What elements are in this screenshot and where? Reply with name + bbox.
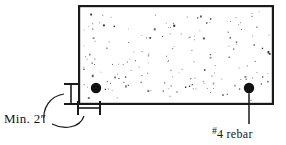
aggregate-speck (200, 16, 202, 18)
aggregate-speck (89, 54, 90, 56)
aggregate-speck (170, 27, 171, 28)
aggregate-speck (236, 41, 237, 43)
aggregate-speck (245, 79, 246, 80)
aggregate-speck (166, 56, 167, 57)
aggregate-speck (240, 22, 241, 23)
aggregate-speck (210, 92, 211, 93)
aggregate-speck (146, 38, 147, 39)
aggregate-speck (118, 64, 119, 65)
aggregate-speck (221, 79, 222, 80)
aggregate-speck (252, 13, 253, 14)
min-cover-label: Min. 2″ (4, 112, 46, 125)
aggregate-speck (215, 65, 216, 66)
aggregate-speck (87, 59, 88, 60)
aggregate-speck (228, 32, 229, 33)
aggregate-speck (261, 83, 262, 85)
aggregate-speck (100, 72, 101, 73)
leader-min-cover-lower (52, 116, 84, 127)
aggregate-speck (194, 40, 195, 41)
aggregate-speck (173, 23, 174, 24)
aggregate-speck (235, 17, 236, 18)
aggregate-speck (262, 48, 263, 49)
aggregate-speck (148, 53, 149, 54)
aggregate-speck (168, 61, 169, 62)
inch-mark-symbol: ″ (40, 111, 46, 126)
aggregate-speck (170, 33, 171, 34)
aggregate-speck (236, 44, 237, 45)
aggregate-speck (128, 42, 129, 43)
aggregate-speck (240, 79, 241, 80)
aggregate-speck (112, 90, 113, 91)
aggregate-speck (244, 76, 246, 77)
aggregate-speck (147, 73, 148, 74)
aggregate-speck (210, 18, 211, 20)
aggregate-speck (213, 88, 214, 89)
aggregate-speck (262, 76, 263, 77)
aggregate-speck (112, 64, 113, 65)
aggregate-speck (102, 15, 103, 16)
aggregate-speck (230, 37, 231, 38)
aggregate-speck (204, 83, 205, 84)
aggregate-speck (83, 69, 84, 70)
aggregate-speck (125, 85, 127, 87)
aggregate-speck (213, 83, 214, 85)
aggregate-speck (256, 72, 257, 73)
aggregate-speck (148, 63, 149, 64)
aggregate-speck (129, 59, 130, 60)
aggregate-speck (117, 97, 118, 98)
aggregate-speck (259, 11, 260, 12)
aggregate-speck (194, 61, 195, 62)
aggregate-speck (252, 36, 253, 37)
aggregate-speck (90, 14, 92, 16)
aggregate-speck (114, 26, 115, 28)
aggregate-speck (173, 25, 175, 27)
aggregate-speck (227, 94, 228, 95)
aggregate-speck (94, 64, 95, 65)
aggregate-speck (109, 42, 110, 43)
aggregate-speck (189, 86, 190, 87)
aggregate-speck (168, 60, 169, 61)
aggregate-speck (207, 88, 208, 89)
aggregate-speck (118, 78, 119, 79)
aggregate-speck (197, 17, 198, 19)
aggregate-speck (256, 26, 257, 28)
rebar-left (91, 83, 101, 93)
concrete-rebar-cover-figure: Min. 2″ #4 rebar (0, 0, 286, 145)
vertical-cover-dimension (64, 84, 78, 104)
aggregate-speck (92, 75, 94, 78)
aggregate-speck (85, 56, 86, 57)
aggregate-speck (222, 94, 223, 96)
aggregate-speck (182, 69, 183, 70)
aggregate-speck (139, 67, 140, 68)
aggregate-speck (84, 84, 85, 85)
aggregate-speck (253, 44, 254, 46)
aggregate-speck (251, 16, 252, 17)
aggregate-speck (142, 51, 143, 52)
aggregate-speck (214, 72, 215, 73)
aggregate-speck (188, 38, 189, 39)
aggregate-speck (176, 91, 177, 92)
aggregate-speck (103, 24, 105, 26)
aggregate-speck (267, 73, 268, 74)
aggregate-speck (163, 90, 164, 91)
aggregate-speck (199, 30, 200, 31)
aggregate-speck (84, 30, 85, 31)
aggregate-speck (229, 46, 230, 47)
aggregate-speck (252, 78, 253, 79)
aggregate-speck (204, 69, 205, 71)
aggregate-speck (151, 90, 152, 91)
aggregate-speck (92, 29, 93, 30)
aggregate-speck (269, 34, 270, 35)
aggregate-speck (149, 37, 151, 39)
aggregate-speck (212, 76, 213, 77)
aggregate-speck (88, 97, 90, 98)
aggregate-speck (111, 17, 112, 18)
aggregate-speck (93, 37, 95, 39)
aggregate-speck (88, 26, 89, 27)
aggregate-speck (166, 23, 167, 24)
aggregate-speck (117, 74, 118, 75)
aggregate-speck (247, 65, 248, 66)
aggregate-speck (107, 81, 108, 82)
aggregate-speck (195, 88, 196, 89)
aggregate-speck (164, 83, 165, 84)
